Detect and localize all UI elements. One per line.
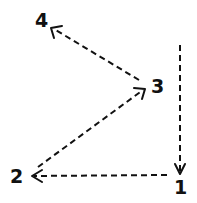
diagram-canvas: 4 3 2 1 [0,0,197,203]
edge-3-to-4 [54,29,139,80]
edge-2-to-3 [38,90,143,167]
diagram-svg [0,0,197,203]
node-label-4: 4 [35,11,48,30]
node-label-1: 1 [174,178,187,197]
edge-1-to-2 [34,175,167,176]
node-label-2: 2 [10,167,23,186]
node-label-3: 3 [151,77,164,96]
